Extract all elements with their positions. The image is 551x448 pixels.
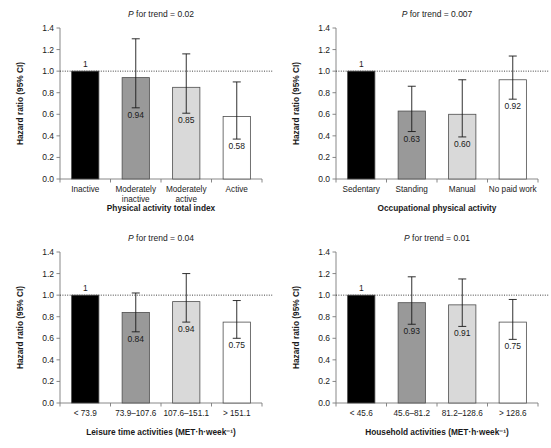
y-tick-label: 1.2 xyxy=(318,45,330,55)
y-tick-label: 1.0 xyxy=(318,66,330,76)
bar-value-label-0: 1 xyxy=(83,59,88,69)
y-tick-label: 0.2 xyxy=(42,152,54,162)
chart-panel-top-left: P for trend = 0.020.00.20.40.60.81.01.21… xyxy=(0,0,276,224)
x-category-label-1: Standing xyxy=(396,185,429,194)
y-tick-label: 0.2 xyxy=(42,376,54,386)
y-axis-title: Hazard ratio (95% CI) xyxy=(15,62,25,145)
y-tick-label: 0.2 xyxy=(318,152,330,162)
x-category-label-0: Sedentary xyxy=(343,185,381,194)
bar-value-label-0: 1 xyxy=(359,59,364,69)
y-tick-label: 0.0 xyxy=(42,174,54,184)
bar-value-label-1: 0.84 xyxy=(127,334,144,344)
y-tick-label: 1.4 xyxy=(42,23,54,33)
y-axis-title: Hazard ratio (95% CI) xyxy=(15,286,25,369)
p-for-trend-label: P for trend = 0.01 xyxy=(404,233,470,243)
x-category-label-2: Manual xyxy=(449,185,476,194)
bar-0 xyxy=(348,71,375,179)
y-tick-label: 0.6 xyxy=(318,109,330,119)
y-tick-label: 0.8 xyxy=(42,312,54,322)
x-category-label-2: 81.2–128.6 xyxy=(442,409,483,418)
y-tick-label: 1.2 xyxy=(42,269,54,279)
x-category-label-3: Active xyxy=(226,185,249,194)
y-tick-label: 1.0 xyxy=(318,290,330,300)
bar-value-label-3: 0.75 xyxy=(228,340,245,350)
x-axis-title: Leisure time activities (MET·h·week⁻¹) xyxy=(86,427,236,437)
x-category-label-0: Inactive xyxy=(71,185,100,194)
bar-value-label-2: 0.85 xyxy=(178,115,195,125)
y-tick-label: 0.0 xyxy=(318,398,330,408)
bar-0 xyxy=(348,295,375,403)
y-tick-label: 1.2 xyxy=(42,45,54,55)
y-tick-label: 1.4 xyxy=(318,23,330,33)
x-category-label-3: > 128.6 xyxy=(499,409,527,418)
y-tick-label: 0.6 xyxy=(42,109,54,119)
chart-panel-bottom-right: P for trend = 0.010.00.20.40.60.81.01.21… xyxy=(276,224,551,448)
x-category-label-3: > 151.1 xyxy=(223,409,251,418)
y-tick-label: 0.6 xyxy=(42,333,54,343)
x-category-label-1: Moderately xyxy=(115,185,156,194)
chart-panel-bottom-left: P for trend = 0.040.00.20.40.60.81.01.21… xyxy=(0,224,276,448)
y-tick-label: 0.8 xyxy=(42,88,54,98)
bar-value-label-1: 0.63 xyxy=(403,134,420,144)
hazard-ratio-figure: P for trend = 0.020.00.20.40.60.81.01.21… xyxy=(0,0,551,448)
p-for-trend-label: P for trend = 0.04 xyxy=(128,233,194,243)
y-axis-title: Hazard ratio (95% CI) xyxy=(291,286,301,369)
p-for-trend-label: P for trend = 0.007 xyxy=(402,9,473,19)
y-tick-label: 0.8 xyxy=(318,312,330,322)
bar-value-label-1: 0.94 xyxy=(127,110,144,120)
y-tick-label: 0.2 xyxy=(318,376,330,386)
y-tick-label: 0.4 xyxy=(318,355,330,365)
y-tick-label: 1.4 xyxy=(318,247,330,257)
bar-value-label-2: 0.60 xyxy=(454,139,471,149)
y-tick-label: 1.0 xyxy=(42,290,54,300)
x-category-label-0: < 73.9 xyxy=(74,409,97,418)
bar-value-label-3: 0.92 xyxy=(504,101,521,111)
chart-panel-top-right: P for trend = 0.0070.00.20.40.60.81.01.2… xyxy=(276,0,551,224)
x-axis-title: Physical activity total index xyxy=(107,203,216,213)
bar-value-label-1: 0.93 xyxy=(403,326,420,336)
y-axis-title: Hazard ratio (95% CI) xyxy=(291,62,301,145)
bar-value-label-3: 0.58 xyxy=(228,141,245,151)
x-axis-title: Household activities (MET·h·week⁻¹) xyxy=(365,427,509,437)
y-tick-label: 0.4 xyxy=(42,131,54,141)
y-tick-label: 0.4 xyxy=(42,355,54,365)
bar-value-label-2: 0.94 xyxy=(178,324,195,334)
bar-value-label-3: 0.75 xyxy=(504,341,521,351)
y-tick-label: 0.4 xyxy=(318,131,330,141)
p-for-trend-label: P for trend = 0.02 xyxy=(128,9,194,19)
x-category-label-0: < 45.6 xyxy=(350,409,373,418)
y-tick-label: 0.0 xyxy=(42,398,54,408)
y-tick-label: 0.8 xyxy=(318,88,330,98)
x-category-label-3: No paid work xyxy=(489,185,538,194)
x-category-label-2: 107.6–151.1 xyxy=(163,409,209,418)
bar-value-label-0: 1 xyxy=(359,283,364,293)
x-category-label-1: 73.9–107.6 xyxy=(115,409,156,418)
bar-value-label-0: 1 xyxy=(83,283,88,293)
y-tick-label: 0.6 xyxy=(318,333,330,343)
bar-0 xyxy=(72,295,99,403)
y-tick-label: 1.4 xyxy=(42,247,54,257)
y-tick-label: 1.0 xyxy=(42,66,54,76)
bar-value-label-2: 0.91 xyxy=(454,328,471,338)
y-tick-label: 0.0 xyxy=(318,174,330,184)
bar-0 xyxy=(72,71,99,179)
x-axis-title: Occupational physical activity xyxy=(378,203,497,213)
x-category-label-1: 45.6–81.2 xyxy=(394,409,431,418)
x-category-label-2: Moderately xyxy=(166,185,207,194)
y-tick-label: 1.2 xyxy=(318,269,330,279)
